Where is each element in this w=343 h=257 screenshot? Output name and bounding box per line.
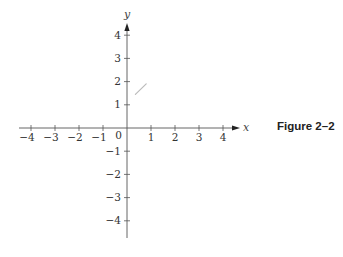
y-axis-arrow-icon (124, 23, 129, 31)
x-axis-label: x (243, 121, 250, 134)
x-tick-label: 3 (196, 131, 203, 143)
origin-label: 0 (115, 129, 122, 141)
axes: xy (19, 8, 250, 238)
x-tick-label: 4 (220, 131, 227, 143)
x-tick-label: −1 (91, 131, 106, 143)
data-series (135, 84, 146, 94)
x-axis-arrow-icon (232, 125, 240, 130)
y-tick-label: 2 (114, 75, 121, 87)
x-tick-label: −2 (67, 131, 82, 143)
y-axis-label: y (123, 8, 131, 21)
y-tick-label: 4 (114, 29, 121, 41)
x-tick-label: −4 (19, 131, 35, 143)
y-tick-label: 1 (114, 98, 121, 110)
y-tick-label: −1 (106, 145, 121, 157)
x-tick-label: 1 (148, 131, 155, 143)
y-tick-label: 3 (114, 52, 121, 64)
figure-caption: Figure 2–2 (277, 120, 335, 132)
series-line (135, 84, 146, 94)
x-tick-label: −3 (43, 131, 58, 143)
y-tick-label: −4 (106, 214, 122, 226)
y-tick-label: −3 (106, 191, 121, 203)
x-tick-label: 2 (172, 131, 179, 143)
tick-labels: −4−3−2−112344321−1−2−3−40 (19, 29, 226, 227)
y-tick-label: −2 (106, 168, 121, 180)
